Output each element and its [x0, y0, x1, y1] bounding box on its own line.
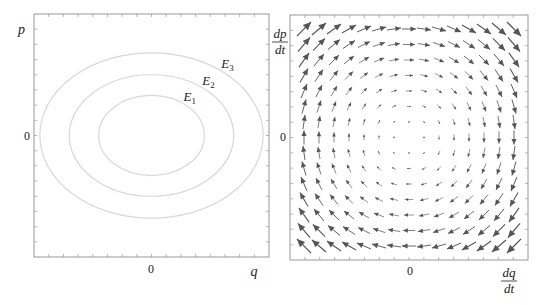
vector-arrow	[387, 243, 401, 248]
phase-space-figure: E1E2E3 p 0 0 q dp dt 0 0 dq dt	[0, 0, 554, 305]
vector-arrow	[408, 152, 410, 154]
arrow-head	[410, 90, 412, 92]
vector-arrow	[302, 99, 307, 113]
vector-arrow	[299, 208, 309, 222]
contour-curve-labels: E1E2E3	[182, 56, 234, 106]
vector-arrow	[374, 213, 384, 217]
vector-arrow	[403, 42, 415, 46]
arrow-head	[439, 90, 442, 93]
vector-arrows	[297, 22, 521, 253]
vector-arrow	[332, 101, 336, 111]
vector-arrow	[407, 168, 411, 170]
vector-arrow	[408, 121, 410, 123]
arrow-head	[327, 241, 334, 248]
arrow-head	[512, 123, 517, 129]
vector-arrow	[510, 68, 518, 82]
vector-arrow	[376, 182, 382, 186]
vector-arrow	[480, 194, 488, 204]
contour-label-e1: E1	[182, 89, 195, 106]
arrow-head	[302, 115, 307, 121]
vector-arrow	[358, 227, 370, 233]
arrow-head	[317, 131, 321, 136]
arrow-head	[496, 169, 500, 175]
arrow-head	[389, 213, 393, 217]
contour-panel: E1E2E3 p 0 0 q	[17, 14, 269, 279]
vector-arrow	[438, 151, 440, 155]
vector-arrow	[497, 116, 501, 128]
vector-axis-ticks	[290, 15, 528, 260]
arrow-head	[299, 208, 306, 215]
vector-arrow	[464, 211, 474, 219]
arrow-head	[439, 43, 445, 47]
arrow-head	[509, 215, 516, 222]
arrow-head	[463, 229, 469, 234]
vector-arrow	[405, 198, 413, 201]
vector-arrow	[417, 244, 431, 249]
vector-arrow	[317, 116, 321, 128]
vector-arrow	[479, 55, 489, 65]
vector-arrow	[435, 197, 443, 201]
vector-arrow	[468, 118, 471, 126]
vector-arrow	[378, 120, 380, 124]
vector-arrow	[376, 89, 382, 93]
vector-arrow	[375, 73, 383, 77]
vector-arrow	[301, 177, 307, 191]
arrow-head	[302, 53, 309, 60]
vector-arrow	[331, 86, 337, 96]
vector-arrow	[317, 100, 322, 112]
vector-arrow	[421, 183, 427, 185]
vector-arrow	[480, 70, 488, 80]
arrow-head	[417, 244, 423, 249]
vector-arrow	[327, 241, 341, 251]
arrow-head	[425, 27, 431, 32]
vector-arrow	[392, 105, 396, 107]
vector-arrow	[389, 58, 399, 62]
y-label-numerator: dp	[274, 26, 288, 41]
arrow-head	[344, 211, 349, 216]
vector-arrow	[361, 181, 367, 187]
vector-arrow	[478, 225, 490, 235]
vector-arrow	[403, 228, 415, 232]
x-axis-label-q: q	[251, 264, 258, 279]
energy-contour-e1	[99, 95, 205, 175]
arrow-head	[512, 60, 519, 67]
vector-arrow	[343, 40, 355, 48]
vector-arrow	[420, 198, 428, 201]
vector-arrow	[510, 192, 518, 206]
vector-arrow	[373, 42, 385, 47]
vector-arrow	[298, 37, 310, 51]
arrow-head	[481, 184, 485, 189]
arrow-head	[378, 135, 380, 137]
vector-arrow	[378, 151, 380, 155]
vector-arrow	[393, 152, 395, 154]
arrow-head	[468, 138, 471, 141]
vector-arrow	[405, 74, 413, 77]
vector-arrow	[447, 26, 461, 32]
arrow-head	[453, 122, 455, 125]
arrow-head	[418, 229, 423, 233]
x-tick-zero: 0	[148, 262, 154, 276]
arrow-head	[379, 42, 385, 46]
vector-arrow	[389, 213, 399, 217]
vector-arrow	[507, 22, 521, 36]
vector-arrow	[420, 74, 428, 77]
vector-arrow	[418, 229, 430, 233]
vector-arrow	[467, 164, 471, 172]
vector-arrow	[433, 228, 445, 233]
arrow-head	[331, 179, 335, 184]
arrow-head	[425, 58, 429, 62]
arrow-head	[404, 213, 408, 217]
arrow-head	[390, 198, 394, 201]
vector-arrow	[358, 41, 370, 47]
arrow-head	[467, 153, 470, 157]
arrow-head	[362, 165, 365, 168]
arrow-head	[424, 74, 428, 77]
arrow-head	[511, 139, 516, 145]
arrow-head	[420, 198, 424, 201]
arrow-head	[364, 72, 368, 76]
vector-arrow	[465, 71, 473, 79]
vector-arrow	[402, 243, 416, 248]
arrow-head	[395, 42, 400, 46]
y-tick-zero: 0	[24, 129, 30, 143]
arrow-head	[402, 243, 408, 248]
